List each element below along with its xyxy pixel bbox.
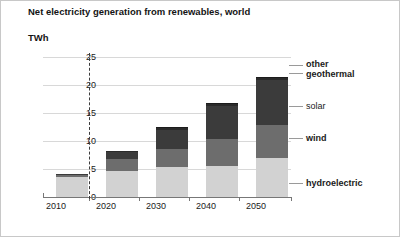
bar-2010 bbox=[56, 174, 88, 197]
x-label-2010: 2010 bbox=[33, 201, 79, 211]
x-tickmark-5 bbox=[291, 197, 292, 201]
x-label-2050: 2050 bbox=[233, 201, 279, 211]
legend-label-geothermal: geothermal bbox=[306, 69, 355, 79]
projection-divider-line bbox=[89, 53, 90, 199]
x-label-2040: 2040 bbox=[183, 201, 229, 211]
legend-label-solar: solar bbox=[306, 101, 326, 111]
bar-segment-solar bbox=[106, 152, 138, 159]
bar-segment-hydroelectric bbox=[156, 167, 188, 197]
chart-figure: Net electricity generation from renewabl… bbox=[0, 0, 400, 237]
legend-label-wind: wind bbox=[306, 133, 327, 143]
leader-line-geothermal bbox=[289, 73, 303, 74]
bar-2050 bbox=[256, 77, 288, 197]
bar-segment-wind bbox=[156, 149, 188, 167]
leader-line-wind bbox=[289, 138, 303, 139]
bar-segment-solar bbox=[156, 130, 188, 149]
bar-segment-solar bbox=[206, 106, 238, 140]
x-axis-line bbox=[43, 197, 292, 198]
bar-segment-wind bbox=[206, 139, 238, 165]
plot-area bbox=[43, 57, 291, 197]
leader-line-other bbox=[289, 65, 303, 66]
bar-segment-hydroelectric bbox=[256, 158, 288, 197]
bar-2040 bbox=[206, 103, 238, 197]
bar-segment-hydroelectric bbox=[106, 171, 138, 197]
x-label-2030: 2030 bbox=[133, 201, 179, 211]
bar-segment-solar bbox=[256, 80, 288, 125]
leader-line-solar bbox=[289, 106, 303, 107]
legend-label-other: other bbox=[306, 59, 329, 69]
y-axis-unit-label: TWh bbox=[28, 32, 49, 43]
bar-segment-hydroelectric bbox=[206, 166, 238, 197]
leader-line-hydroelectric bbox=[289, 183, 303, 184]
bar-2030 bbox=[156, 127, 188, 197]
bar-segment-wind bbox=[256, 125, 288, 159]
bar-2020 bbox=[106, 151, 138, 197]
legend-label-hydroelectric: hydroelectric bbox=[306, 178, 363, 188]
x-label-2020: 2020 bbox=[83, 201, 129, 211]
chart-title: Net electricity generation from renewabl… bbox=[28, 6, 258, 19]
bar-segment-hydroelectric bbox=[56, 177, 88, 197]
bar-segment-wind bbox=[106, 159, 138, 171]
